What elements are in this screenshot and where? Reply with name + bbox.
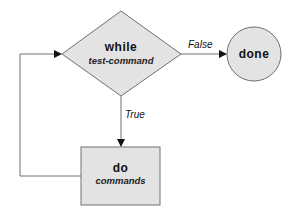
terminal-node-done: done (227, 27, 281, 81)
edge-loop-back (20, 54, 81, 176)
terminal-label: done (239, 47, 270, 61)
edge-false-label: False (188, 39, 213, 50)
flowchart: while test-command False done True do co… (0, 0, 291, 214)
decision-node-while: while test-command (62, 11, 181, 96)
edge-true: True (121, 96, 145, 146)
process-keyword: do (113, 161, 129, 175)
decision-keyword: while (104, 40, 138, 54)
edge-true-label: True (125, 109, 145, 120)
edge-false: False (181, 39, 226, 54)
process-node-do: do commands (81, 147, 160, 205)
process-body: commands (95, 175, 145, 186)
decision-condition: test-command (89, 55, 154, 66)
